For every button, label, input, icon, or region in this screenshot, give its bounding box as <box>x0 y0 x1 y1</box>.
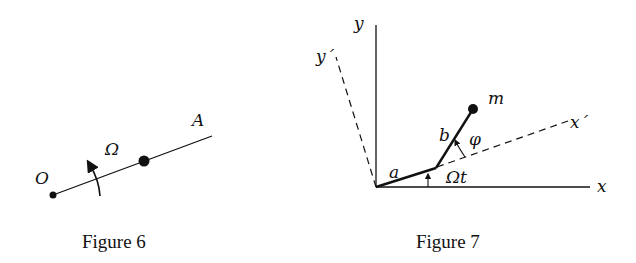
label-m: m <box>488 88 504 108</box>
caption-figure-7: Figure 7 <box>416 231 480 252</box>
y-prime-axis <box>336 57 376 187</box>
figures-canvas: O A Ω Figure 6 y y´ x x´ a b m φ Ωt Figu… <box>0 0 636 263</box>
label-x-prime: x´ <box>570 112 589 132</box>
label-b: b <box>439 125 450 145</box>
label-omega-t: Ωt <box>445 167 467 187</box>
label-x: x <box>597 176 607 196</box>
figure-6: O A Ω Figure 6 <box>35 110 212 252</box>
label-a: a <box>389 162 399 182</box>
mass-m <box>468 104 478 114</box>
label-A: A <box>190 110 204 130</box>
label-y: y <box>353 13 364 33</box>
arm-a <box>376 168 436 187</box>
label-y-prime: y´ <box>315 46 335 66</box>
angle-phi-arrow <box>456 142 465 157</box>
rod-line <box>53 136 212 195</box>
bead-dot <box>139 156 150 167</box>
figure-7: y y´ x x´ a b m φ Ωt Figure 7 <box>315 13 607 252</box>
label-O: O <box>35 168 49 188</box>
label-phi: φ <box>469 129 481 149</box>
caption-figure-6: Figure 6 <box>82 231 146 252</box>
label-omega: Ω <box>104 139 119 159</box>
origin-point <box>50 192 57 199</box>
